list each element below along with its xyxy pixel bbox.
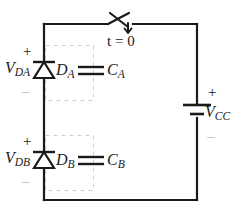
v-da-label: VDA: [5, 60, 30, 78]
v-db-plus-sign: +: [23, 134, 31, 149]
diode-a-label-sub: A: [68, 68, 75, 80]
v-da-minus-sign: _: [22, 79, 30, 94]
v-db-label: VDB: [5, 150, 30, 168]
v-cc-plus-sign: +: [208, 85, 216, 100]
diode-a-triangle: [34, 62, 54, 78]
switch-time-label: t = 0: [107, 34, 135, 49]
v-db-label-base: V: [5, 149, 15, 166]
diode-a-label-base: D: [56, 61, 68, 78]
v-db-minus-sign: _: [22, 169, 30, 184]
diode-b-triangle: [34, 152, 54, 168]
v-cc-label: VCC: [205, 104, 230, 122]
diode-b-label-base: D: [56, 151, 68, 168]
v-da-label-sub: DA: [15, 66, 30, 78]
capacitor-b-label-base: C: [107, 151, 118, 168]
diode-b-label-sub: B: [68, 158, 75, 170]
diode-a-symbol: [33, 62, 55, 78]
v-db-label-sub: DB: [15, 156, 30, 168]
capacitor-a-symbol: [78, 67, 104, 74]
v-da-label-base: V: [5, 59, 15, 76]
v-cc-label-sub: CC: [215, 110, 230, 122]
capacitor-a-label-sub: A: [118, 68, 125, 80]
switch-symbol[interactable]: [108, 13, 129, 27]
diode-b-label: DB: [56, 152, 75, 170]
capacitor-b-label-sub: B: [118, 158, 125, 170]
diode-b-symbol: [33, 152, 55, 168]
capacitor-b-label: CB: [107, 152, 125, 170]
v-cc-label-base: V: [205, 103, 215, 120]
capacitor-a-label-base: C: [107, 61, 118, 78]
v-cc-minus-sign: _: [207, 124, 215, 139]
diode-a-label: DA: [56, 62, 75, 80]
v-da-plus-sign: +: [23, 44, 31, 59]
capacitor-a-label: CA: [107, 62, 125, 80]
capacitor-b-symbol: [78, 157, 104, 164]
circuit-diagram: t = 0 + VDA _ + VDB _ DA DB CA CB + VCC …: [0, 0, 244, 222]
